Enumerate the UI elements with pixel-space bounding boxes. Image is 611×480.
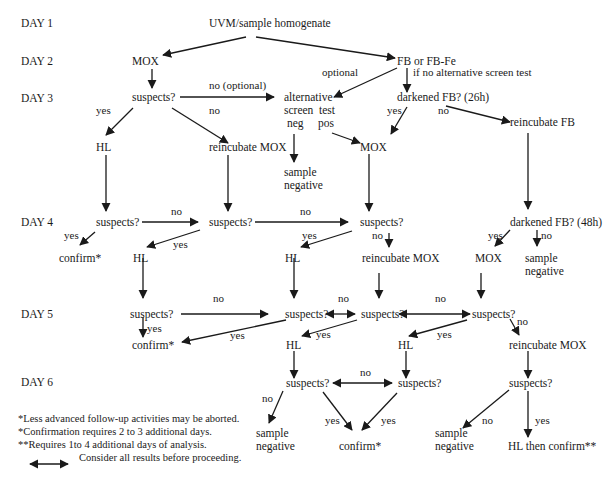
edge-label-d48-no: no <box>541 229 552 241</box>
node-sample-negative-d-2: negative <box>435 440 474 453</box>
node-alt-screen-2a: screen <box>284 104 313 117</box>
edge-label-d6c-yes: yes <box>535 414 550 426</box>
edge-label-d4a-yes: yes <box>64 229 79 241</box>
node-sample-negative-b-2: negative <box>525 265 564 278</box>
edge-label-d5a-no: no <box>213 292 224 304</box>
node-suspects-d4c: suspects? <box>360 216 403 229</box>
day-1-label: DAY 1 <box>21 17 53 29</box>
node-mox-d2: MOX <box>132 55 159 68</box>
edge-label-d5b-no: no <box>338 292 349 304</box>
node-alt-pos: pos <box>318 117 334 130</box>
edge-label-if-no-alt: if no alternative screen test <box>413 66 532 78</box>
node-darkened-26h: darkened FB? (26h) <box>397 91 489 104</box>
node-sample-negative-c-2: negative <box>256 440 295 453</box>
node-sample-negative-a-2: negative <box>284 179 323 192</box>
node-hl-then-confirm: HL then confirm** <box>508 440 596 453</box>
node-suspects-d5b: suspects? <box>285 308 328 321</box>
node-sample-negative-a-1: sample <box>284 166 317 179</box>
node-confirm-d4: confirm* <box>59 252 101 265</box>
edge-label-d6-no-mid: no <box>360 366 371 378</box>
node-sample-negative-b-1: sample <box>525 252 558 265</box>
edge-label-d5d-no: no <box>517 315 528 327</box>
node-hl-d3: HL <box>96 141 111 154</box>
edge-label-d48-yes: yes <box>488 229 503 241</box>
node-mox-d3: MOX <box>360 141 387 154</box>
node-alt-neg: neg <box>287 117 304 130</box>
edge-label-d4c-yes: yes <box>302 229 317 241</box>
node-darkened-48h: darkened FB? (48h) <box>510 216 602 229</box>
node-start: UVM/sample homogenate <box>209 17 331 30</box>
node-hl-d5b: HL <box>398 339 413 352</box>
edge-label-d5a-yes: yes <box>147 322 162 334</box>
node-reincubate-mox-d5: reincubate MOX <box>509 339 587 352</box>
day-3-label: DAY 3 <box>21 92 53 104</box>
node-mox-d4: MOX <box>475 252 502 265</box>
day-6-label: DAY 6 <box>21 376 53 388</box>
node-suspects-d6c: suspects? <box>509 377 552 390</box>
day-4-label: DAY 4 <box>21 216 53 228</box>
node-confirm-d6: confirm* <box>339 440 381 453</box>
edge-label-d6c-no: no <box>482 414 493 426</box>
node-hl-d4a: HL <box>133 252 148 265</box>
node-confirm-d5: confirm* <box>132 339 174 352</box>
footnote-1: *Less advanced follow-up activities may … <box>18 413 239 425</box>
edge-label-d3-yes: yes <box>96 104 111 116</box>
node-reincubate-fb: reincubate FB <box>510 116 575 129</box>
node-alt-screen-2b: test <box>319 104 335 117</box>
edge-label-d6a-no: no <box>262 392 273 404</box>
edge-label-d4a-no: no <box>171 205 182 217</box>
node-suspects-d6b: suspects? <box>398 377 441 390</box>
node-suspects-d6a: suspects? <box>286 377 329 390</box>
node-hl-d4b: HL <box>285 252 300 265</box>
node-suspects-d4a: suspects? <box>96 216 139 229</box>
footnote-2: *Confirmation requires 2 to 3 additional… <box>18 426 212 438</box>
edge-label-optional: optional <box>322 66 358 78</box>
edge-label-d4b-no: no <box>300 205 311 217</box>
node-suspects-d5c: suspects? <box>361 308 404 321</box>
edge-label-d6b-yes: yes <box>381 414 396 426</box>
node-hl-d5a: HL <box>286 339 301 352</box>
node-reincubate-mox-d4: reincubate MOX <box>362 252 440 265</box>
edge-label-d6a-yes: yes <box>325 414 340 426</box>
day-2-label: DAY 2 <box>21 55 53 67</box>
footnote-3: **Requires 1to 4 additional days of anal… <box>18 439 207 451</box>
edge-label-d4c-no: no <box>372 229 383 241</box>
legend-text: Consider all results before proceeding. <box>79 452 241 464</box>
node-alt-screen: alternative <box>284 91 333 104</box>
edge-label-d26-yes: yes <box>387 104 402 116</box>
edge-label-d5a-yes2: yes <box>230 329 245 341</box>
edge-label-no-optional: no (optional) <box>209 79 266 91</box>
node-suspects-d4b: suspects? <box>209 216 252 229</box>
edge-label-d5b-yes: yes <box>316 328 331 340</box>
edge-label-d5c-no: no <box>435 292 446 304</box>
edge-label-d5c-yes: yes <box>437 328 452 340</box>
edge-label-d4b-yes: yes <box>173 238 188 250</box>
node-suspects-d5a: suspects? <box>130 308 173 321</box>
node-sample-negative-d-1: sample <box>435 427 468 440</box>
node-suspects-d5d: suspects? <box>472 308 515 321</box>
node-reincubate-mox-d3: reincubate MOX <box>209 141 287 154</box>
node-sample-negative-c-1: sample <box>256 427 289 440</box>
edge-label-d26-no: no <box>438 104 449 116</box>
edge-label-d3-no: no <box>209 104 220 116</box>
day-5-label: DAY 5 <box>21 308 53 320</box>
node-suspects-d3: suspects? <box>132 91 175 104</box>
